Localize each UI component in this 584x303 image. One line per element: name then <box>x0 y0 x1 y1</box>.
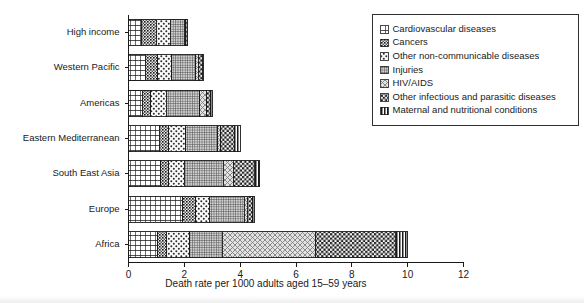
bar-segment <box>253 196 254 222</box>
bar-row <box>129 90 213 116</box>
bar-segment <box>159 126 169 152</box>
y-axis-category-label: Eastern Mediterranean <box>23 132 120 143</box>
bar-segment <box>151 90 166 116</box>
bar-segment <box>202 55 203 81</box>
bar-segment <box>166 90 200 116</box>
x-tick-label: 0 <box>126 269 132 280</box>
bar-segment <box>254 161 260 187</box>
bar-segment <box>166 232 190 258</box>
bar-segment <box>186 126 218 152</box>
y-axis-category-label: South East Asia <box>52 167 120 178</box>
x-axis: 024681012 <box>126 263 470 280</box>
bar-segment <box>221 126 235 152</box>
bar-row <box>129 161 260 187</box>
bar-segment <box>198 55 202 81</box>
bar-row <box>129 196 255 222</box>
legend-swatch-icon <box>381 94 389 102</box>
legend-item: Maternal and nutritional conditions <box>381 104 538 115</box>
bar-segment <box>142 90 150 116</box>
bar-row <box>129 126 241 152</box>
bar-segment <box>158 55 172 81</box>
bar-segment <box>184 161 223 187</box>
bar-segment <box>129 90 143 116</box>
y-axis-category-label: Europe <box>89 203 120 214</box>
bar-segment <box>233 161 254 187</box>
legend-swatch-icon <box>381 107 389 115</box>
bar-segment <box>170 19 184 45</box>
chart-legend: Cardiovascular diseasesCancersOther non-… <box>373 15 579 126</box>
legend-item-label: Maternal and nutritional conditions <box>393 104 538 115</box>
bars-group <box>129 19 408 258</box>
y-axis-category-label: Americas <box>80 97 120 108</box>
legend-item-label: Injuries <box>393 64 424 75</box>
x-tick-label: 10 <box>402 269 414 280</box>
legend-swatch-icon <box>381 66 389 74</box>
y-axis-category-label: Africa <box>95 238 120 249</box>
bar-segment <box>129 232 158 258</box>
y-axis-category-label: High income <box>67 26 120 37</box>
bar-segment <box>235 126 241 152</box>
bar-segment <box>207 90 211 116</box>
bar-segment <box>129 55 146 81</box>
legend-item-label: Other non-communicable diseases <box>393 50 540 61</box>
legend-item: Cardiovascular diseases <box>381 23 497 34</box>
bar-segment <box>209 196 244 222</box>
bar-segment <box>129 161 161 187</box>
chart-figure: High incomeWestern PacificAmericasEaster… <box>0 0 584 303</box>
bar-segment <box>156 19 170 45</box>
bar-segment <box>222 232 316 258</box>
legend-item-label: Other infectious and parasitic diseases <box>393 91 556 102</box>
bar-segment <box>129 19 142 45</box>
bar-row <box>129 232 408 258</box>
bar-segment <box>316 232 396 258</box>
x-tick-label: 12 <box>458 269 470 280</box>
bar-segment <box>183 196 196 222</box>
y-axis: High incomeWestern PacificAmericasEaster… <box>23 15 129 263</box>
bar-segment <box>196 196 210 222</box>
bar-segment <box>247 196 253 222</box>
bar-segment <box>187 19 188 45</box>
bar-segment <box>190 232 222 258</box>
bar-segment <box>158 232 166 258</box>
bar-segment <box>172 55 196 81</box>
chart-canvas: High incomeWestern PacificAmericasEaster… <box>0 0 584 303</box>
bar-segment <box>129 126 160 152</box>
bar-row <box>129 19 188 45</box>
bar-row <box>129 55 204 81</box>
legend-item-label: Cardiovascular diseases <box>393 23 497 34</box>
legend-swatch-icon <box>381 26 389 34</box>
legend-swatch-icon <box>381 39 389 47</box>
legend-item: Other infectious and parasitic diseases <box>381 91 556 102</box>
legend-item-label: Cancers <box>393 36 429 47</box>
bar-segment <box>141 19 156 45</box>
bar-segment <box>211 90 212 116</box>
legend-item-label: HIV/AIDS <box>393 77 434 88</box>
bar-segment <box>145 55 158 81</box>
bar-segment <box>169 126 186 152</box>
legend-item: Other non-communicable diseases <box>381 50 540 61</box>
bar-segment <box>395 232 408 258</box>
bar-segment <box>169 161 184 187</box>
bar-segment <box>161 161 169 187</box>
y-axis-category-label: Western Pacific <box>54 61 120 72</box>
bar-segment <box>223 161 233 187</box>
legend-swatch-icon <box>381 80 389 88</box>
legend-swatch-icon <box>381 53 389 61</box>
x-axis-title: Death rate per 1000 adults aged 15–59 ye… <box>165 278 366 289</box>
bar-segment <box>129 196 183 222</box>
bar-segment <box>200 90 207 116</box>
